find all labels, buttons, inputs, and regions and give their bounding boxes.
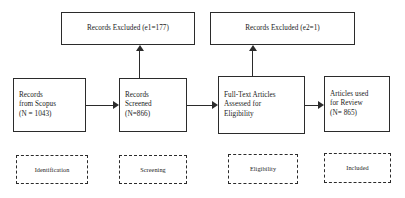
- connector-screened-to-excluded1: [139, 51, 140, 78]
- flow-box-1-line-2: from Scopus: [19, 100, 80, 110]
- arrowhead-box1-to-box2: [113, 101, 119, 109]
- arrowhead-box3-to-box4: [318, 101, 324, 109]
- flow-box-3-line-2: Assessed for: [224, 100, 299, 110]
- flow-box-fulltext-assessed: Full-Text Articles Assessed for Eligibil…: [218, 76, 305, 134]
- flow-box-records-from-scopus: Records from Scopus (N = 1043): [13, 78, 86, 132]
- connector-box1-to-box2: [86, 105, 113, 106]
- stage-box-screening: Screening: [119, 155, 187, 184]
- stage-label-screening: Screening: [140, 166, 166, 174]
- flow-box-1-line-3: (N = 1043): [19, 110, 80, 120]
- prisma-flow-diagram: Records Excluded (e1=177) Records Exclud…: [0, 0, 405, 198]
- stage-label-identification: Identification: [35, 166, 70, 174]
- flow-box-3-line-3: Eligibility: [224, 110, 299, 120]
- flow-box-4-line-1: Articles used: [330, 90, 384, 100]
- flow-box-records-screened: Records Screened (N=866): [119, 78, 187, 132]
- flow-box-2-line-3: (N=866): [125, 110, 181, 120]
- flow-box-4-line-2: for Review: [330, 99, 384, 109]
- stage-box-included: Included: [324, 153, 391, 183]
- arrowhead-screened-to-excluded1: [136, 45, 144, 51]
- arrowhead-box2-to-box3: [212, 101, 218, 109]
- flow-box-articles-used-for-review: Articles used for Review (N= 865): [324, 76, 390, 132]
- arrowhead-fulltext-to-excluded2: [249, 45, 257, 51]
- connector-box3-to-box4: [305, 105, 318, 106]
- flow-box-3-line-1: Full-Text Articles: [224, 91, 299, 101]
- flow-box-1-line-1: Records: [19, 91, 80, 101]
- flow-box-2-line-1: Records: [125, 91, 181, 101]
- records-excluded-box-1: Records Excluded (e1=177): [61, 12, 195, 45]
- records-excluded-label-2: Records Excluded (e2=1): [245, 24, 320, 34]
- connector-box2-to-box3: [187, 105, 212, 106]
- stage-box-identification: Identification: [16, 155, 88, 184]
- stage-label-eligibility: Eligibility: [250, 165, 276, 173]
- stage-box-eligibility: Eligibility: [228, 154, 298, 184]
- flow-box-2-line-2: Screened: [125, 100, 181, 110]
- records-excluded-box-2: Records Excluded (e2=1): [210, 12, 355, 45]
- flow-box-4-line-3: (N= 865): [330, 109, 384, 119]
- records-excluded-label-1: Records Excluded (e1=177): [87, 24, 169, 34]
- stage-label-included: Included: [346, 164, 368, 172]
- connector-fulltext-to-excluded2: [252, 51, 253, 78]
